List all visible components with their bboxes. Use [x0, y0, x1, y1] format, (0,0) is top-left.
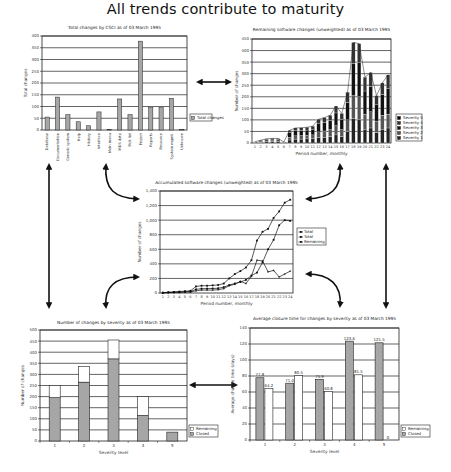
x-tick-label: 4: [142, 443, 145, 448]
bar: [149, 108, 153, 130]
legend-label: Severity 1: [403, 135, 423, 140]
data-point: [273, 239, 275, 241]
bar-closed: [316, 379, 324, 440]
bar-segment: [305, 139, 309, 143]
y-axis-label: Total changes: [23, 69, 28, 99]
x-tick-label: 3: [173, 295, 175, 299]
chart-remaining-changes: Remaining software changes (unweighted) …: [234, 27, 423, 156]
y-tick-label: 250: [32, 69, 40, 74]
bar-segment: [334, 106, 338, 113]
x-tick-label: Main menu: [108, 133, 112, 153]
bar-segment: [363, 91, 367, 114]
bar-segment: [288, 140, 292, 143]
bar-remaining: [354, 375, 362, 440]
legend-label: Closed: [196, 431, 210, 436]
data-point: [251, 259, 253, 261]
x-tick-label: 6: [283, 145, 285, 149]
bar-closed: [137, 415, 148, 441]
bar-segment: [334, 135, 338, 143]
bar-remaining: [295, 376, 303, 440]
y-axis-label: Average change time (days): [230, 354, 235, 414]
bar: [118, 99, 122, 130]
y-tick-label: 450: [242, 36, 250, 41]
x-tick-label: 14: [233, 295, 238, 299]
bar-segment: [305, 127, 309, 130]
bar-segment: [369, 112, 373, 128]
y-tick-label: 250: [242, 83, 250, 88]
x-tick-label: 21: [368, 145, 372, 149]
bar-segment: [357, 97, 361, 120]
chart-title: Number of changes by severity as of 03 M…: [57, 320, 170, 325]
chart-changes-by-severity: Number of changes by severity as of 03 M…: [20, 320, 218, 455]
x-tick-label: System mgmt.: [170, 133, 174, 159]
y-tick-label: 350: [30, 361, 38, 366]
x-tick-label: 17: [345, 145, 349, 149]
y-tick-label: 1,400: [146, 188, 158, 193]
bar-segment: [375, 133, 379, 143]
data-label: 123.6: [344, 336, 356, 341]
y-tick-label: 50: [32, 427, 37, 432]
bar-segment: [363, 77, 367, 91]
bar-segment: [375, 121, 379, 133]
bar-closed: [286, 383, 294, 440]
bar-remaining: [265, 389, 273, 440]
bar-segment: [352, 63, 356, 95]
x-tick-label: 16: [340, 145, 344, 149]
data-point: [234, 273, 236, 275]
y-tick-label: 200: [242, 94, 250, 99]
x-tick-label: 23: [282, 295, 286, 299]
bar-segment: [328, 120, 332, 129]
y-tick-label: 400: [32, 33, 40, 38]
x-tick-label: 18: [351, 145, 355, 149]
bar-closed: [167, 432, 178, 441]
x-tick-label: 22: [374, 145, 378, 149]
bar-closed: [256, 378, 264, 440]
y-axis-label: Number of changes: [20, 365, 25, 406]
bar-segment: [334, 113, 338, 126]
x-tick-label: 2: [167, 295, 169, 299]
x-tick-label: 1: [53, 443, 56, 448]
x-tick-label: 10: [210, 295, 214, 299]
bar-segment: [357, 44, 361, 62]
bar-segment: [334, 126, 338, 135]
bar-segment: [311, 135, 315, 139]
legend-label: Closed: [408, 431, 422, 436]
legend-label: Remaining: [304, 239, 325, 244]
bar-segment: [323, 122, 327, 131]
bar-segment: [276, 141, 280, 142]
x-tick-label: 15: [334, 145, 338, 149]
y-tick-label: 300: [32, 57, 40, 62]
x-tick-label: 23: [380, 145, 384, 149]
bar-segment: [265, 142, 269, 143]
x-tick-label: History: [87, 132, 91, 146]
bar-segment: [369, 128, 373, 143]
x-tick-label: Project: [139, 132, 143, 145]
bar-segment: [323, 137, 327, 143]
data-point: [256, 272, 258, 274]
x-tick-label: 15: [238, 295, 242, 299]
bar-segment: [294, 139, 298, 143]
bar-segment: [352, 119, 356, 143]
data-label: 81.5: [354, 369, 363, 374]
x-tick-label: 3: [112, 443, 115, 448]
x-tick-label: 4: [353, 442, 356, 447]
y-tick-label: 150: [30, 405, 38, 410]
bar-segment: [294, 131, 298, 136]
bar: [107, 129, 111, 130]
data-point: [273, 217, 275, 219]
bar-segment: [299, 131, 303, 136]
bar-segment: [357, 120, 361, 143]
x-tick-label: 19: [260, 295, 264, 299]
y-tick-label: 60: [242, 389, 247, 394]
bar-segment: [323, 131, 327, 137]
data-point: [278, 211, 280, 213]
bar-segment: [369, 86, 373, 111]
bar: [138, 41, 142, 130]
curved-arrow-icon: [307, 165, 340, 199]
bar-remaining: [325, 391, 333, 440]
bar-segment: [381, 94, 385, 115]
x-tick-label: 17: [249, 295, 253, 299]
x-tick-label: 1: [254, 145, 256, 149]
x-tick-label: 1: [162, 295, 164, 299]
x-axis-label: Severity level: [99, 450, 128, 455]
